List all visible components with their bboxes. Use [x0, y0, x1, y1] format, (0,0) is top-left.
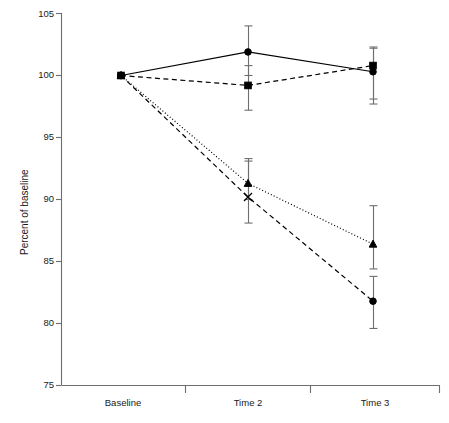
- plot-series-layer: [117, 26, 377, 329]
- x-tick-label-time2: Time 2: [234, 397, 263, 408]
- y-axis-ticks: [56, 14, 62, 386]
- y-axis-title: Percent of baseline: [19, 169, 30, 255]
- series-line-x: [121, 76, 373, 302]
- y-tick-label: 105: [38, 8, 54, 19]
- y-tick-label: 85: [43, 255, 54, 266]
- marker-square: [245, 82, 252, 89]
- y-tick-label: 80: [43, 317, 54, 328]
- y-tick-label: 100: [38, 69, 54, 80]
- marker-square: [370, 62, 377, 69]
- chart-figure: Percent of baseline 105 100 95 90 85 80 …: [0, 0, 449, 423]
- marker-circle: [245, 49, 252, 56]
- x-axis-ticks: [186, 386, 440, 394]
- line-chart-canvas: Percent of baseline 105 100 95 90 85 80 …: [0, 0, 449, 423]
- x-tick-label-baseline: Baseline: [105, 397, 141, 408]
- marker-triangle: [369, 240, 377, 247]
- marker-circle: [118, 72, 125, 79]
- x-tick-label-time3: Time 3: [361, 397, 390, 408]
- x-axis-tick-labels: Baseline Time 2 Time 3: [105, 397, 390, 408]
- y-tick-label: 75: [43, 379, 54, 390]
- y-tick-label: 95: [43, 131, 54, 142]
- marker-circle: [370, 68, 377, 75]
- series-line-triangle: [121, 76, 373, 245]
- marker-triangle: [244, 179, 252, 186]
- y-axis-tick-labels: 105 100 95 90 85 80 75: [38, 8, 54, 390]
- marker-circle: [370, 298, 377, 305]
- y-tick-label: 90: [43, 193, 54, 204]
